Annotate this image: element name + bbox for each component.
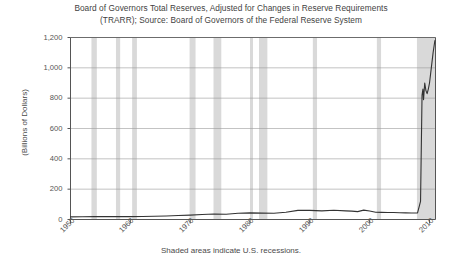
chart-title-line-1: Board of Governors Total Reserves, Adjus… [0,3,462,15]
y-tick-label: 600 [29,125,63,133]
chart-container: Board of Governors Total Reserves, Adjus… [0,0,462,263]
y-tick-label: 800 [29,94,63,102]
axis-ticks [68,38,430,224]
y-axis-label: (Billions of Dollars) [20,53,29,193]
y-tick-label: 0 [29,216,63,224]
chart-title: Board of Governors Total Reserves, Adjus… [0,3,462,26]
y-tick-label: 1,200 [29,34,63,42]
chart-footnote: Shaded areas indicate U.S. recessions. [0,246,462,255]
y-tick-label: 200 [29,185,63,193]
y-tick-label: 400 [29,155,63,163]
y-tick-label: 1,000 [29,64,63,72]
chart-title-line-2: (TRARR); Source: Board of Governors of t… [0,15,462,27]
